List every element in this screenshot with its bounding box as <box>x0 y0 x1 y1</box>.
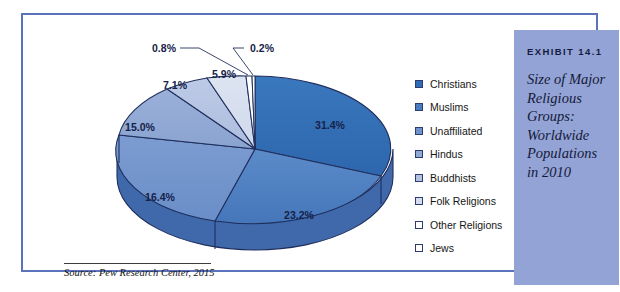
pie-label-buddhists: 7.1% <box>163 79 188 91</box>
legend-label-jews: Jews <box>430 242 454 254</box>
legend-item-jews[interactable]: Jews <box>415 237 515 261</box>
legend-item-christians[interactable]: Christians <box>415 72 515 96</box>
legend-label-buddhists: Buddhists <box>430 172 476 184</box>
legend-item-buddhists[interactable]: Buddhists <box>415 166 515 190</box>
pie-label-other-religions: 0.8% <box>152 42 177 54</box>
legend-swatch-icon-buddhists <box>415 174 423 182</box>
legend-item-muslims[interactable]: Muslims <box>415 96 515 120</box>
legend-swatch-icon-folk-religions <box>415 197 423 205</box>
pie-label-folk-religions: 5.9% <box>212 68 237 80</box>
legend-item-hindus[interactable]: Hindus <box>415 143 515 167</box>
legend-swatch-icon-muslims <box>415 103 423 111</box>
pie-label-jews: 0.2% <box>250 42 275 54</box>
legend-item-other-religions[interactable]: Other Religions <box>415 213 515 237</box>
legend-item-unaffiliated[interactable]: Unaffiliated <box>415 119 515 143</box>
legend-swatch-icon-hindus <box>415 150 423 158</box>
legend-label-other-religions: Other Religions <box>430 219 502 231</box>
chart-legend: Christians Muslims Unaffiliated Hindus B… <box>415 72 515 260</box>
pie-label-christians: 31.4% <box>315 119 345 131</box>
legend-label-christians: Christians <box>430 78 477 90</box>
legend-label-unaffiliated: Unaffiliated <box>430 125 482 137</box>
exhibit-screenshot: 31.4% 23.2% 16.4% 15.0% 7.1% 5.9% 0.8% 0… <box>0 0 620 292</box>
legend-label-folk-religions: Folk Religions <box>430 195 496 207</box>
legend-swatch-icon-other-religions <box>415 221 423 229</box>
pie-label-unaffiliated: 16.4% <box>145 191 175 203</box>
exhibit-frame: 31.4% 23.2% 16.4% 15.0% 7.1% 5.9% 0.8% 0… <box>21 13 598 272</box>
legend-label-hindus: Hindus <box>430 148 463 160</box>
legend-swatch-icon-jews <box>415 244 423 252</box>
legend-swatch-icon-unaffiliated <box>415 127 423 135</box>
exhibit-number: EXHIBIT 14.1 <box>527 46 609 57</box>
source-note: Source: Pew Research Center, 2015 <box>64 267 215 278</box>
pie-label-muslims: 23.2% <box>284 209 314 221</box>
exhibit-title: Size of Major Religious Groups: Worldwid… <box>527 70 609 181</box>
pie-label-hindus: 15.0% <box>125 121 155 133</box>
exhibit-caption-panel: EXHIBIT 14.1 Size of Major Religious Gro… <box>514 30 619 285</box>
legend-item-folk-religions[interactable]: Folk Religions <box>415 190 515 214</box>
source-divider <box>64 263 211 264</box>
legend-swatch-icon-christians <box>415 80 423 88</box>
legend-label-muslims: Muslims <box>430 101 469 113</box>
